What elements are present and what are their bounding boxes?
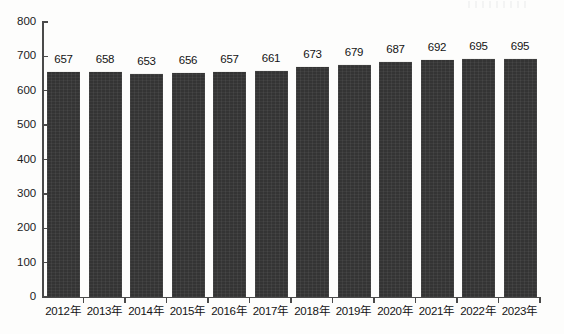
bar-chart: 8007006005004003002001000 65765865365665… bbox=[0, 0, 564, 334]
bar-value-label: 695 bbox=[456, 41, 501, 53]
y-tick-label: 700 bbox=[2, 50, 36, 62]
scan-artifact bbox=[468, 1, 526, 8]
bar bbox=[462, 58, 495, 297]
y-tick-label: 800 bbox=[2, 16, 36, 28]
x-tick-mark bbox=[539, 297, 540, 303]
y-tick-label: 100 bbox=[2, 257, 36, 269]
y-tick-label: 400 bbox=[2, 154, 36, 166]
bar bbox=[89, 71, 122, 297]
x-tick-mark bbox=[124, 297, 125, 303]
y-tick-label: 500 bbox=[2, 119, 36, 131]
bar-value-label: 656 bbox=[166, 55, 211, 67]
x-tick-mark bbox=[332, 297, 333, 303]
bar bbox=[421, 59, 454, 297]
bar-value-label: 653 bbox=[124, 56, 169, 68]
bar-value-label: 673 bbox=[290, 49, 335, 61]
bar bbox=[296, 66, 329, 297]
bar-value-label: 695 bbox=[498, 41, 543, 53]
x-tick-mark bbox=[456, 297, 457, 303]
bar bbox=[130, 73, 163, 297]
x-tick-mark bbox=[249, 297, 250, 303]
x-tick-mark bbox=[83, 297, 84, 303]
y-tick-mark bbox=[42, 21, 48, 22]
bar-value-label: 657 bbox=[207, 54, 252, 66]
bar bbox=[379, 61, 412, 297]
y-tick-label: 0 bbox=[2, 291, 36, 303]
y-tick-label: 200 bbox=[2, 222, 36, 234]
y-tick-label: 300 bbox=[2, 188, 36, 200]
x-axis-label: 2023年 bbox=[495, 306, 545, 318]
bar bbox=[255, 70, 288, 297]
bar-value-label: 679 bbox=[332, 47, 377, 59]
bar-value-label: 692 bbox=[415, 42, 460, 54]
x-tick-mark bbox=[166, 297, 167, 303]
bar bbox=[338, 64, 371, 297]
x-tick-mark bbox=[290, 297, 291, 303]
bar bbox=[504, 58, 537, 297]
bar-value-label: 657 bbox=[41, 54, 86, 66]
bar-value-label: 687 bbox=[373, 44, 418, 56]
y-tick-label: 600 bbox=[2, 85, 36, 97]
x-tick-mark bbox=[207, 297, 208, 303]
x-tick-mark bbox=[498, 297, 499, 303]
bar-value-label: 658 bbox=[83, 54, 128, 66]
x-tick-mark bbox=[415, 297, 416, 303]
bar-value-label: 661 bbox=[249, 53, 294, 65]
x-tick-mark bbox=[373, 297, 374, 303]
bar bbox=[47, 71, 80, 297]
bar bbox=[213, 71, 246, 297]
bar bbox=[172, 72, 205, 298]
